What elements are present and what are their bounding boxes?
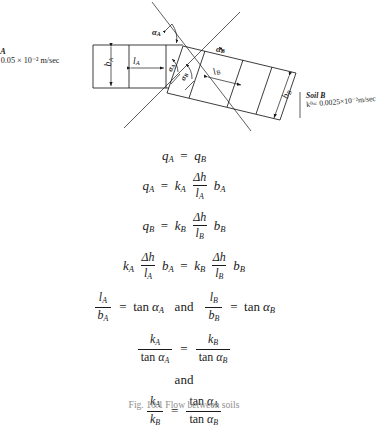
eq6-fraction-left: kA tan αA <box>138 333 173 365</box>
flow-net-diagram: il A = 0.05 × 10⁻² m/sec Soil B kᴮ= 0.00… <box>0 0 368 150</box>
equation-3: qB = kB Δh lB bB <box>0 211 368 241</box>
equation-connector-and: and <box>0 372 368 388</box>
eq6-right-numerator: kB <box>205 333 221 348</box>
eq3-b: bB <box>214 218 226 234</box>
eq5-fraction-right: lB bB <box>205 291 222 323</box>
eq4-fraction-left: Δh lA <box>139 251 158 281</box>
eq1-rhs: qB <box>194 148 206 164</box>
eq5-alpha-left: αA <box>152 299 164 315</box>
eq5-right-numerator: lB <box>207 291 221 306</box>
eq2-b: bA <box>214 178 226 194</box>
eq7-left-denominator: kB <box>147 411 163 427</box>
eq4-left-numerator: Δh <box>139 251 158 265</box>
eq3-equals: = <box>161 218 168 234</box>
dimension-label-b-a: bA <box>103 58 113 67</box>
eq3-fraction: Δh lB <box>190 211 209 241</box>
equation-5: lA bA = tan αA and lB bB = tan αB <box>0 291 368 323</box>
eq6-fraction-right: kB tan αB <box>196 333 231 365</box>
soil-b-label: Soil B kᴮ= 0.0025×10⁻²m/sec <box>306 92 376 109</box>
eq4-equals: = <box>180 258 187 274</box>
equation-block: qA = qB qA = kA Δh lA bA qB = kB Δh lB b… <box>0 148 368 427</box>
eq5-conjunction: and <box>175 299 194 315</box>
normal-line <box>124 12 240 128</box>
eq6-right-denominator: tan αB <box>196 349 231 365</box>
soil-b-div-3 <box>256 67 272 114</box>
eq5-equals-right: = <box>230 299 237 315</box>
eq4-left-denominator: lA <box>141 265 155 281</box>
and-text: and <box>175 372 194 388</box>
eq6-equals: = <box>180 341 187 357</box>
eq4-k-left: kA <box>123 258 134 274</box>
soil-a-name: il A <box>0 47 60 56</box>
dimension-label-l-a: lA <box>133 56 140 66</box>
eq2-frac-numerator: Δh <box>190 171 209 185</box>
eq4-fraction-right: Δh lB <box>210 251 229 281</box>
eq4-b-left: bA <box>162 258 174 274</box>
eq5-left-numerator: lA <box>96 291 110 306</box>
equation-2: qA = kA Δh lA bA <box>0 171 368 201</box>
equation-1: qA = qB <box>0 148 368 164</box>
eq5-left-denominator: bA <box>95 307 112 323</box>
eq4-k-right: kB <box>194 258 205 274</box>
eq7-right-denominator: tan αB <box>186 411 221 427</box>
eq6-left-numerator: kA <box>147 333 163 348</box>
eq3-lhs: qB <box>143 218 155 234</box>
soil-b-top <box>183 46 296 73</box>
equation-4: kA Δh lA bA = kB Δh lB bB <box>0 251 368 281</box>
eq5-right-denominator: bB <box>205 307 222 323</box>
eq2-lhs: qA <box>143 178 155 194</box>
eq2-fraction: Δh lA <box>190 171 209 201</box>
angle-label-alpha-b-top: αB <box>216 44 225 54</box>
eq5-fraction-left: lA bA <box>95 291 112 323</box>
soil-a-label: il A = 0.05 × 10⁻² m/sec <box>0 47 60 66</box>
angle-label-alpha-a-top: αA <box>152 27 161 37</box>
eq1-lhs: qA <box>162 148 174 164</box>
alpha-b-low-leader <box>185 81 194 90</box>
eq6-left-denominator: tan αA <box>138 349 173 365</box>
eq1-equals: = <box>180 148 187 164</box>
eq5-tan-right: tan <box>244 299 260 315</box>
eq2-equals: = <box>161 178 168 194</box>
eq5-tan-left: tan <box>133 299 149 315</box>
eq2-frac-denominator: lA <box>193 185 207 201</box>
soil-b-bottom <box>167 93 280 120</box>
eq5-equals-left: = <box>119 299 126 315</box>
soil-b-dimension-arrows <box>208 76 289 118</box>
soil-a-dimension-arrows <box>111 47 164 86</box>
figure-caption: Fig. 10.1 Flow between soils <box>0 399 368 410</box>
alpha-a-arc <box>172 24 177 43</box>
eq5-alpha-right: αB <box>263 299 275 315</box>
eq4-b-right: bB <box>233 258 245 274</box>
eq2-k: kA <box>175 178 186 194</box>
eq3-frac-numerator: Δh <box>190 211 209 225</box>
soil-a-permeability: = 0.05 × 10⁻² m/sec <box>0 56 60 65</box>
eq4-right-numerator: Δh <box>210 251 229 265</box>
eq3-k: kB <box>175 218 186 234</box>
equation-6: kA tan αA = kB tan αB <box>0 333 368 365</box>
eq4-right-denominator: lB <box>212 265 226 281</box>
eq3-frac-denominator: lB <box>193 225 207 241</box>
construction-lines <box>124 2 251 131</box>
